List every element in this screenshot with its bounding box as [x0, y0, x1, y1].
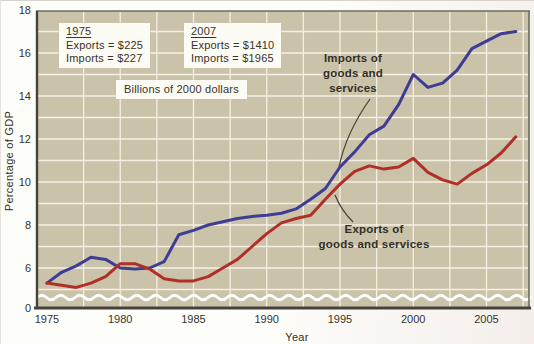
legend-box-2007-title: 2007 [191, 25, 274, 38]
legend-box-2007-imports: Imports = $1965 [191, 52, 274, 65]
y-tick-label: 12 [19, 133, 31, 145]
x-tick-label: 1980 [108, 313, 132, 325]
x-axis-title: Year [249, 331, 345, 343]
exports-annotation: Exports of goods and services [300, 222, 448, 252]
imports-annotation-line1: Imports of [303, 51, 403, 66]
imports-annotation-line2: goods and [303, 66, 403, 81]
x-tick-label: 1975 [35, 313, 59, 325]
legend-box-1975-imports: Imports = $227 [66, 52, 143, 65]
y-tick-label: 0 [25, 302, 31, 314]
x-tick-label: 1985 [181, 313, 205, 325]
exports-annotation-line2: goods and services [300, 237, 448, 252]
y-tick-label: 10 [19, 176, 31, 188]
figure: 0681012141618197519801985199019952000200… [0, 0, 534, 344]
legend-box-1975: 1975 Exports = $225 Imports = $227 [59, 23, 150, 68]
y-tick-label: 18 [19, 4, 31, 16]
legend-box-2007: 2007 Exports = $1410 Imports = $1965 [184, 23, 281, 68]
y-tick-label: 16 [19, 47, 31, 59]
x-tick-label: 2005 [474, 313, 498, 325]
legend-box-2007-exports: Exports = $1410 [191, 39, 274, 52]
imports-annotation-line3: services [303, 81, 403, 96]
x-tick-label: 1990 [255, 313, 279, 325]
note-box: Billions of 2000 dollars [116, 80, 247, 99]
y-tick-label: 8 [25, 219, 31, 231]
y-tick-label: 14 [19, 90, 31, 102]
x-tick-label: 1995 [328, 313, 352, 325]
x-tick-label: 2000 [401, 313, 425, 325]
legend-box-1975-title: 1975 [66, 25, 143, 38]
exports-annotation-line1: Exports of [300, 222, 448, 237]
legend-box-1975-exports: Exports = $225 [66, 39, 143, 52]
imports-annotation: Imports of goods and services [303, 51, 403, 96]
y-tick-label: 6 [25, 262, 31, 274]
y-axis-title: Percentage of GDP [3, 106, 15, 216]
